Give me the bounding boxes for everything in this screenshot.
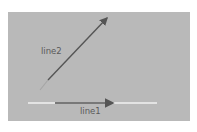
line2-label: line2 bbox=[41, 47, 62, 56]
line1-label: line1 bbox=[80, 107, 101, 116]
diagram-stage: line2 line1 bbox=[0, 0, 197, 132]
line2-tail bbox=[40, 80, 48, 90]
